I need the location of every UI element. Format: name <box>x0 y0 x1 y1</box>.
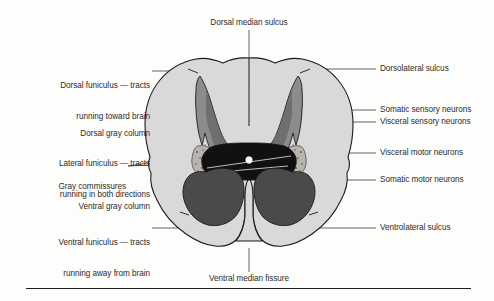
label-dorsal-funiculus-line1: Dorsal funiculus — tracts <box>8 81 150 91</box>
label-ventrolateral-sulcus: Ventrolateral sulcus <box>380 223 492 233</box>
central-canal <box>246 157 253 164</box>
figure-page: Dorsal median sulcus Ventral median fiss… <box>0 0 494 301</box>
label-ventral-funiculus-line1: Ventral funiculus — tracts <box>8 238 150 248</box>
label-somatic-motor-neurons: Somatic motor neurons <box>380 175 492 185</box>
label-visceral-sensory-neurons: Visceral sensory neurons <box>380 117 492 127</box>
label-dorsolateral-sulcus: Dorsolateral sulcus <box>380 64 492 74</box>
label-ventral-funiculus-line2: running away from brain <box>8 269 150 279</box>
label-visceral-motor-neurons: Visceral motor neurons <box>380 148 492 158</box>
label-ventral-median-fissure: Ventral median fissure <box>189 274 309 284</box>
label-dorsal-median-sulcus: Dorsal median sulcus <box>189 18 309 28</box>
label-ventral-gray-column-line1: Ventral gray column <box>8 202 150 212</box>
footer-divider <box>26 288 471 289</box>
label-somatic-sensory-neurons: Somatic sensory neurons <box>380 105 492 115</box>
